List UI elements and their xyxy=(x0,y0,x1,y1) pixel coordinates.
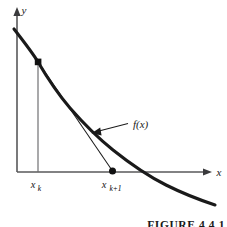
tick-label-xk: x k xyxy=(30,179,42,193)
newton-method-diagram: y x f(x) x k x k+1 xyxy=(0,0,227,227)
function-label: f(x) xyxy=(133,118,149,131)
x-axis-group: x xyxy=(17,166,222,178)
figure-caption: FIGURE 4.4.1 xyxy=(147,219,225,227)
tick-label-xk-subscript: k xyxy=(38,184,42,193)
x-axis-label: x xyxy=(216,166,222,178)
tick-label-xk-plus-1-subscript: k+1 xyxy=(109,184,121,193)
figure-container: y x f(x) x k x k+1 xyxy=(0,0,227,227)
function-curve xyxy=(14,29,215,205)
curve-label-leader xyxy=(92,124,129,136)
tick-label-xk-plus-1: x k+1 xyxy=(101,179,122,193)
y-axis-arrowhead xyxy=(13,7,20,16)
point-marker-xk-plus-1 xyxy=(109,168,116,175)
leader-line xyxy=(97,124,128,132)
tick-label-xk-text: x xyxy=(30,179,36,190)
tick-label-xk-plus-1-text: x xyxy=(101,179,107,190)
y-axis-label: y xyxy=(21,4,27,16)
tangent-line xyxy=(38,62,113,171)
point-marker-xk xyxy=(35,59,42,66)
x-axis-arrowhead xyxy=(203,168,212,175)
